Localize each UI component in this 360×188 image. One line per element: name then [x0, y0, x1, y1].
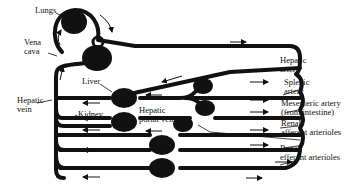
spleen-organ [193, 78, 213, 94]
label-mesenteric-2: (from intestine) [281, 108, 334, 117]
liver-organ [111, 88, 137, 108]
label-renal-eff-2: efferent arterioles [280, 153, 340, 162]
label-splenic-2: artery [284, 87, 304, 96]
arrow-lungs [100, 15, 112, 32]
label-renal-aff-2: afferent arterioles [281, 128, 341, 137]
lungs-organ [61, 10, 87, 34]
label-hepatic-vein-2: vein [17, 105, 32, 114]
aorta-top [98, 40, 300, 58]
label-hepatic-portal-2: portal vein [139, 115, 176, 124]
label-hepatic-artery-2: artery [280, 65, 300, 74]
label-liver: Liver [82, 77, 100, 86]
renal-organ-1 [149, 135, 175, 155]
kidney-organ [111, 112, 137, 132]
mesenteric-organ [173, 116, 193, 132]
label-lungs: Lungs [35, 6, 56, 15]
label-kidney: Kidney [78, 110, 103, 119]
hepatic-vein-link [125, 68, 300, 95]
renal-organ-2 [149, 158, 175, 178]
arrow-vena-cava [58, 30, 61, 45]
label-vena-cava-2: cava [24, 47, 40, 56]
heart-organ [82, 45, 112, 71]
intestine-organ [195, 100, 215, 116]
